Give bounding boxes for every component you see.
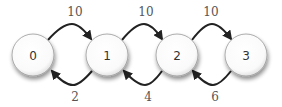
edge-3-to-2 — [193, 71, 231, 85]
node-2-label: 2 — [173, 49, 181, 63]
edge-label-3-2: 6 — [211, 90, 219, 104]
node-3-label: 3 — [242, 49, 250, 63]
state-diagram: 0 1 2 3 10 10 10 2 4 6 — [0, 0, 282, 107]
edge-label-2-3: 10 — [203, 5, 218, 19]
edge-1-to-0 — [52, 71, 92, 85]
edge-0-to-1 — [48, 24, 91, 40]
node-3: 3 — [225, 34, 267, 76]
node-1-label: 1 — [103, 49, 111, 63]
edge-label-2-1: 4 — [144, 90, 152, 104]
node-0: 0 — [12, 34, 54, 76]
node-0-label: 0 — [29, 49, 37, 63]
edge-2-to-1 — [124, 71, 162, 85]
node-1: 1 — [86, 34, 128, 76]
edge-label-1-0: 2 — [71, 90, 79, 104]
edge-2-to-3 — [192, 24, 231, 40]
edge-label-1-2: 10 — [138, 5, 153, 19]
edge-label-0-1: 10 — [67, 5, 82, 19]
node-2: 2 — [156, 34, 198, 76]
edge-1-to-2 — [122, 24, 162, 40]
